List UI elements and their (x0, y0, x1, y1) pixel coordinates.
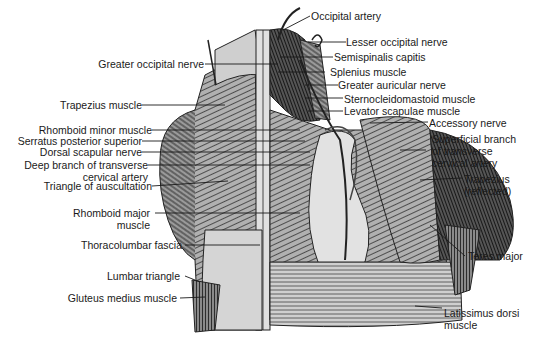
label-sternocleidomastoid-muscle: Sternocleidomastoid muscle (344, 93, 475, 105)
label-line-2: muscle (444, 319, 519, 331)
label-greater-auricular-nerve: Greater auricular nerve (338, 79, 446, 91)
latissimus-dorsi (270, 262, 462, 327)
label-line-2: of transverse (432, 145, 516, 157)
label-lumbar-triangle: Lumbar triangle (107, 270, 180, 282)
label-thoracolumbar-fascia: Thoracolumbar fascia (81, 239, 182, 251)
label-semispinalis-capitis: Semispinalis capitis (334, 51, 426, 63)
label-gluteus-medius-muscle: Gluteus medius muscle (68, 292, 177, 304)
label-accessory-nerve: Accessory nerve (429, 117, 507, 129)
label-trapezius-reflected: Trapezius (reflected) (464, 173, 511, 197)
label-line-1: Trapezius (464, 173, 511, 185)
anatomy-figure: Greater occipital nerve Trapezius muscle… (0, 0, 535, 345)
label-splenius-muscle: Splenius muscle (330, 66, 406, 78)
label-line-1: Latissimus dorsi (444, 307, 519, 319)
label-levator-scapulae-muscle: Levator scapulae muscle (344, 105, 460, 117)
label-triangle-of-auscultation: Triangle of auscultation (44, 180, 152, 192)
label-latissimus-dorsi-muscle: Latissimus dorsi muscle (444, 307, 519, 331)
label-occipital-artery: Occipital artery (311, 10, 381, 22)
label-teres-major: Teres major (468, 250, 523, 262)
label-line-2: muscle (73, 219, 150, 231)
label-line-3: cervical artery (432, 157, 516, 169)
gluteus-medius (192, 280, 220, 332)
label-lesser-occipital-nerve: Lesser occipital nerve (346, 36, 448, 48)
label-greater-occipital-nerve: Greater occipital nerve (98, 58, 204, 70)
label-line-1: Superficial branch (432, 133, 516, 145)
label-superficial-branch-transverse-cervical-artery: Superficial branch of transverse cervica… (432, 133, 516, 169)
label-dorsal-scapular-nerve: Dorsal scapular nerve (40, 146, 142, 158)
label-trapezius-muscle: Trapezius muscle (60, 99, 142, 111)
label-line-1: Deep branch of transverse (24, 159, 148, 171)
label-rhomboid-major-muscle: Rhomboid major muscle (73, 207, 150, 231)
label-line-1: Rhomboid major (73, 207, 150, 219)
label-line-2: (reflected) (464, 185, 511, 197)
